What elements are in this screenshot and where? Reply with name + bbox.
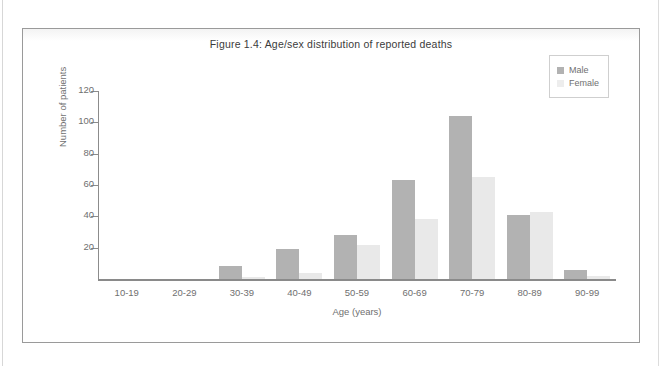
chart-legend: Male Female	[549, 55, 609, 98]
x-axis-tick-label: 30-39	[213, 287, 271, 298]
bar-male-40-49	[276, 249, 299, 279]
y-axis-tick-label: 60	[83, 178, 94, 189]
figure-container: Figure 1.4: Age/sex distribution of repo…	[22, 28, 640, 343]
chart-title: Figure 1.4: Age/sex distribution of repo…	[23, 38, 639, 50]
bar-group	[156, 91, 214, 279]
bar-female-70-79	[472, 177, 495, 279]
y-axis-tick-label: 40	[83, 209, 94, 220]
legend-item-female: Female	[557, 78, 601, 88]
bar-group	[213, 91, 271, 279]
bar-group	[501, 91, 559, 279]
bar-female-90-99	[587, 276, 610, 279]
bars-layer	[98, 91, 616, 279]
x-axis-tick-label: 40-49	[271, 287, 329, 298]
bar-male-90-99	[564, 270, 587, 279]
bar-group	[271, 91, 329, 279]
x-axis-tick-label: 50-59	[328, 287, 386, 298]
bar-group	[328, 91, 386, 279]
bar-group	[98, 91, 156, 279]
bar-group	[386, 91, 444, 279]
y-axis-title: Number of patients	[57, 67, 68, 147]
legend-label-female: Female	[569, 78, 599, 88]
y-axis-tick-label: 20	[83, 241, 94, 252]
bar-male-70-79	[449, 116, 472, 279]
x-axis-line	[98, 279, 616, 281]
bar-male-80-89	[507, 215, 530, 279]
x-axis-tick-label: 20-29	[156, 287, 214, 298]
bar-male-50-59	[334, 235, 357, 279]
x-axis-tick-label: 90-99	[558, 287, 616, 298]
page-edge-line-right	[658, 0, 659, 366]
bar-group	[558, 91, 616, 279]
bar-group	[443, 91, 501, 279]
x-axis-tick-label: 70-79	[443, 287, 501, 298]
x-axis-title: Age (years)	[98, 306, 616, 317]
x-axis-tick-label: 80-89	[501, 287, 559, 298]
bar-female-30-39	[242, 277, 265, 279]
bar-male-30-39	[219, 266, 242, 279]
bar-male-60-69	[392, 180, 415, 279]
x-axis-tick-label: 10-19	[98, 287, 156, 298]
legend-label-male: Male	[569, 65, 589, 75]
bar-female-80-89	[530, 212, 553, 279]
male-swatch-icon	[557, 67, 564, 74]
x-axis-tick-label: 60-69	[386, 287, 444, 298]
page-edge-line-left	[2, 0, 3, 366]
y-axis-tick-label: 100	[78, 115, 94, 126]
bar-female-60-69	[415, 219, 438, 279]
legend-item-male: Male	[557, 65, 601, 75]
bar-female-40-49	[299, 273, 322, 279]
plot-area: 20406080100120 10-1920-2930-3940-4950-59…	[98, 91, 616, 279]
y-axis-tick-label: 120	[78, 84, 94, 95]
bar-female-50-59	[357, 245, 380, 279]
female-swatch-icon	[557, 80, 564, 87]
y-axis-tick-label: 80	[83, 147, 94, 158]
